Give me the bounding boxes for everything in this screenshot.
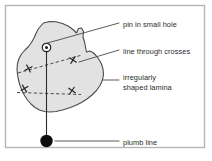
label-plumb-line: plumb line (123, 138, 157, 147)
label-lamina-line-1: irregularly (123, 73, 156, 82)
label-lamina-line-2: shaped lamina (123, 83, 173, 92)
label-pin-in-small-hole: pin in small hole (123, 20, 177, 29)
pin-center-dot (45, 46, 48, 49)
label-line-through-crosses: line through crosses (123, 47, 190, 56)
figure-container: pin in small hole line through crosses i… (0, 0, 212, 161)
plumb-line-diagram: pin in small hole line through crosses i… (0, 0, 212, 161)
plumb-bob (40, 135, 52, 147)
pin-in-small-hole (42, 43, 50, 51)
